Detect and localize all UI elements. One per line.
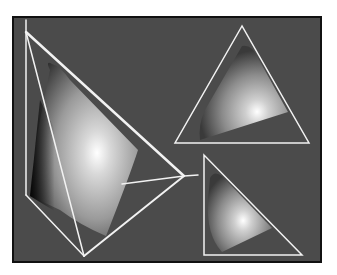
gamut-diagram: [0, 0, 337, 275]
